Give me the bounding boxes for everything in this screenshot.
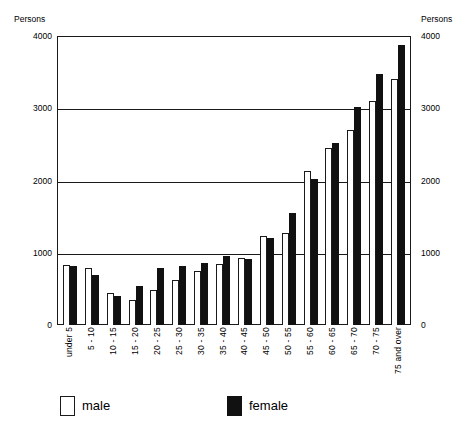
legend-label-male: male: [82, 399, 110, 413]
x-axis-label: under 5: [65, 327, 74, 389]
y-tick-left-0: 0: [47, 320, 52, 330]
x-axis-label: 30 - 35: [197, 327, 206, 389]
x-label-slot: 20 - 25: [147, 327, 169, 389]
x-axis-label: 60 - 65: [328, 327, 337, 389]
legend-entry-female: female: [227, 396, 288, 416]
y-tick-right-1000: 1000: [421, 248, 440, 258]
gridline-1000: [58, 254, 410, 255]
x-label-slot: 60 - 65: [322, 327, 344, 389]
x-axis-label: 25 - 30: [175, 327, 184, 389]
legend: male female: [60, 396, 360, 422]
x-label-slot: 65 - 70: [343, 327, 365, 389]
x-axis-label: 75 and over: [394, 327, 403, 389]
x-axis-label: 50 - 55: [284, 327, 293, 389]
gridline-3000: [58, 109, 410, 110]
x-axis-label: 5 - 10: [87, 327, 96, 389]
x-axis-label: 70 - 75: [372, 327, 381, 389]
x-label-slot: 55 - 60: [300, 327, 322, 389]
x-label-slot: 25 - 30: [168, 327, 190, 389]
y-tick-right-2000: 2000: [421, 176, 440, 186]
plot-area: [57, 36, 411, 325]
y-tick-left-1000: 1000: [33, 248, 52, 258]
y-tick-left-3000: 3000: [33, 103, 52, 113]
gridline-2000: [58, 182, 410, 183]
x-axis-label: 65 - 70: [350, 327, 359, 389]
left-axis-caption: Persons: [14, 14, 45, 24]
x-label-slot: 45 - 50: [256, 327, 278, 389]
x-label-slot: 40 - 45: [234, 327, 256, 389]
x-label-slot: 15 - 20: [125, 327, 147, 389]
x-axis-label: 40 - 45: [240, 327, 249, 389]
y-tick-right-0: 0: [421, 320, 426, 330]
y-tick-left-2000: 2000: [33, 176, 52, 186]
x-axis-label: 10 - 15: [109, 327, 118, 389]
x-label-slot: 70 - 75: [365, 327, 387, 389]
x-axis-label: 35 - 40: [219, 327, 228, 389]
x-axis-label: 15 - 20: [131, 327, 140, 389]
y-tick-right-3000: 3000: [421, 103, 440, 113]
x-label-slot: 35 - 40: [212, 327, 234, 389]
x-axis-label: 20 - 25: [153, 327, 162, 389]
legend-label-female: female: [249, 399, 288, 413]
x-label-slot: 50 - 55: [278, 327, 300, 389]
legend-swatch-male-icon: [60, 396, 75, 416]
x-label-slot: under 5: [59, 327, 81, 389]
right-axis-caption: Persons: [421, 14, 452, 24]
x-label-slot: 10 - 15: [103, 327, 125, 389]
legend-entry-male: male: [60, 396, 110, 416]
y-tick-right-4000: 4000: [421, 31, 440, 41]
legend-swatch-female-icon: [227, 396, 242, 416]
population-by-age-bar-chart: Persons Persons 001000100020002000300030…: [0, 0, 463, 435]
x-label-slot: 5 - 10: [81, 327, 103, 389]
y-tick-left-4000: 4000: [33, 31, 52, 41]
x-label-slot: 75 and over: [387, 327, 409, 389]
x-axis-label: 55 - 60: [306, 327, 315, 389]
x-axis-category-labels: under 55 - 1010 - 1515 - 2020 - 2525 - 3…: [57, 327, 411, 389]
x-axis-label: 45 - 50: [262, 327, 271, 389]
x-label-slot: 30 - 35: [190, 327, 212, 389]
